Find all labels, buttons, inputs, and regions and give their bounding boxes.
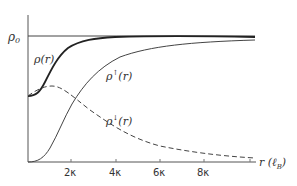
svg-text:2κ: 2κ — [64, 167, 76, 178]
series-rho-up — [28, 40, 255, 162]
svg-text:4κ: 4κ — [109, 167, 121, 178]
series-rho-down — [28, 86, 255, 158]
x-axis-label: r (ℓB) — [259, 156, 286, 171]
label-rho-down: ρ↓(r) — [105, 114, 132, 128]
svg-text:6κ: 6κ — [153, 167, 165, 178]
x-tick-labels: 2κ 4κ 6κ 8κ — [64, 167, 209, 178]
label-rho-up: ρ↑(r) — [105, 69, 132, 83]
label-rho: ρ(r) — [33, 53, 54, 66]
svg-text:8κ: 8κ — [197, 167, 209, 178]
line-chart: 2κ 4κ 6κ 8κ ρ0 ρ(r) ρ↑(r) ρ↓(r) r (ℓB) — [0, 0, 297, 186]
y-label-rho0: ρ0 — [7, 30, 20, 45]
series-rho — [28, 36, 255, 96]
